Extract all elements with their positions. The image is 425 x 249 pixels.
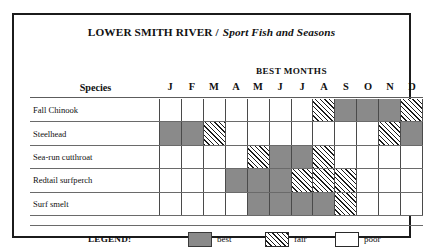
season-cell-poor (160, 99, 182, 121)
legend-text-best: best (217, 234, 232, 244)
season-cell-fair (379, 122, 401, 144)
season-cell-poor (160, 193, 182, 215)
legend-item-fair: fair (265, 232, 307, 247)
season-cell-poor (182, 146, 204, 168)
legend-item-poor: poor (335, 232, 381, 247)
season-cell-best (292, 146, 314, 168)
season-cell-best (379, 99, 401, 121)
month-cells (159, 122, 423, 144)
season-cell-poor (379, 193, 401, 215)
table-row: Fall Chinook (30, 99, 423, 122)
month-header-4: M (247, 81, 269, 92)
season-cell-poor (160, 146, 182, 168)
season-cell-best (182, 122, 204, 144)
month-cells (159, 146, 423, 168)
table-row: Surf smelt (30, 193, 423, 216)
month-header-1: F (181, 81, 203, 92)
season-cell-best (401, 122, 423, 144)
best-months-heading: BEST MONTHS (159, 66, 424, 76)
fish-seasons-chart-page: LOWER SMITH RIVER / Sport Fish and Seaso… (0, 0, 425, 249)
title-main: LOWER SMITH RIVER / (88, 26, 219, 38)
season-cell-poor (182, 193, 204, 215)
month-cells (159, 169, 423, 191)
legend-text-poor: poor (364, 234, 381, 244)
seasons-matrix: Fall ChinookSteelheadSea-run cutthroatRe… (30, 99, 423, 216)
legend: LEGEND: bestfairpoor (30, 228, 423, 249)
season-cell-poor (401, 193, 423, 215)
season-cell-poor (182, 169, 204, 191)
season-cell-poor (226, 193, 248, 215)
season-cell-poor (401, 169, 423, 191)
month-header-6: J (291, 81, 313, 92)
month-header-2: M (203, 81, 225, 92)
month-header-row: JFMAMJJASOND (159, 81, 423, 92)
table-row: Steelhead (30, 122, 423, 145)
season-cell-poor (270, 99, 292, 121)
species-name: Surf smelt (30, 193, 159, 215)
season-cell-poor (160, 169, 182, 191)
title-italic: Sport Fish and Seasons (223, 26, 335, 38)
season-cell-poor (204, 99, 226, 121)
season-cell-poor (226, 146, 248, 168)
species-column-header: Species (32, 82, 159, 93)
season-cell-fair (248, 146, 270, 168)
season-cell-poor (204, 193, 226, 215)
season-cell-poor (270, 122, 292, 144)
month-header-0: J (159, 81, 181, 92)
table-row: Redtail surfperch (30, 169, 423, 192)
season-cell-best (226, 169, 248, 191)
legend-item-best: best (188, 232, 232, 247)
season-cell-best (270, 146, 292, 168)
season-cell-poor (226, 99, 248, 121)
season-cell-fair (313, 99, 335, 121)
season-cell-poor (292, 122, 314, 144)
season-cell-poor (248, 99, 270, 121)
season-cell-poor (204, 146, 226, 168)
season-cell-poor (248, 122, 270, 144)
month-cells (159, 99, 423, 121)
legend-swatch-poor (335, 232, 359, 247)
season-cell-poor (335, 122, 357, 144)
month-header-11: D (401, 81, 423, 92)
page-title: LOWER SMITH RIVER / Sport Fish and Seaso… (14, 22, 409, 40)
season-cell-poor (182, 99, 204, 121)
season-cell-poor (357, 146, 379, 168)
month-header-9: O (357, 81, 379, 92)
species-name: Fall Chinook (30, 99, 159, 121)
season-cell-poor (335, 146, 357, 168)
season-cell-best (335, 99, 357, 121)
species-name: Sea-run cutthroat (30, 146, 159, 168)
month-cells (159, 193, 423, 215)
month-header-5: J (269, 81, 291, 92)
season-cell-best (270, 193, 292, 215)
season-cell-fair (313, 169, 335, 191)
header-divider (30, 97, 423, 98)
month-header-3: A (225, 81, 247, 92)
season-cell-best (248, 169, 270, 191)
legend-divider (30, 225, 423, 226)
chart-frame: LOWER SMITH RIVER / Sport Fish and Seaso… (12, 13, 411, 238)
season-cell-best (313, 193, 335, 215)
season-cell-poor (357, 122, 379, 144)
season-cell-fair (292, 169, 314, 191)
season-cell-best (160, 122, 182, 144)
legend-label: LEGEND: (88, 234, 131, 244)
season-cell-poor (379, 169, 401, 191)
legend-swatch-best (188, 232, 212, 247)
season-cell-poor (313, 122, 335, 144)
season-cell-poor (379, 146, 401, 168)
season-cell-best (357, 99, 379, 121)
season-cell-poor (226, 122, 248, 144)
month-header-7: A (313, 81, 335, 92)
season-cell-fair (335, 193, 357, 215)
season-cell-best (248, 193, 270, 215)
month-header-10: N (379, 81, 401, 92)
season-cell-poor (401, 146, 423, 168)
species-name: Steelhead (30, 122, 159, 144)
season-cell-fair (401, 99, 423, 121)
month-header-8: S (335, 81, 357, 92)
season-cell-best (292, 193, 314, 215)
season-cell-fair (204, 122, 226, 144)
season-cell-best (270, 169, 292, 191)
season-cell-poor (357, 169, 379, 191)
